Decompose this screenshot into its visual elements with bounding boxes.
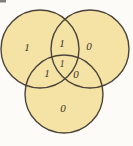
region-value-bottom-only: 0 [60, 102, 66, 114]
venn-diagram: 1 1 0 1 1 0 0 [0, 0, 133, 146]
venn-circle-fills [1, 10, 129, 133]
region-value-right-only: 0 [86, 40, 92, 52]
region-value-center-triple: 1 [60, 59, 65, 69]
region-value-left-only: 1 [24, 41, 30, 53]
scan-artifact-mark [0, 0, 6, 3]
region-value-top-intersection: 1 [59, 37, 65, 49]
region-value-left-bottom-intersection: 1 [44, 67, 50, 79]
region-value-right-bottom-intersection: 0 [73, 68, 79, 80]
venn-diagram-figure: 1 1 0 1 1 0 0 [0, 0, 133, 146]
